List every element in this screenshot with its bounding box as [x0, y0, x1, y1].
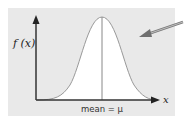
x-axis-label: x [163, 94, 169, 105]
mean-label: mean = μ [81, 104, 124, 114]
x-axis-arrow-icon [151, 97, 160, 104]
y-axis-label: f (x) [12, 37, 35, 50]
y-axis-arrow-icon [33, 15, 40, 24]
bell-curve-fill [37, 17, 158, 100]
normal-distribution-diagram: f (x) x mean = μ [0, 0, 187, 121]
pointer-arrow-icon [139, 22, 183, 37]
